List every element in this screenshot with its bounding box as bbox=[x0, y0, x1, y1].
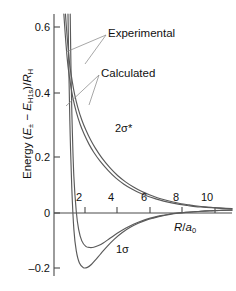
x-tick-label-0: 2 bbox=[71, 191, 87, 203]
x-tick-label-4: 10 bbox=[199, 191, 215, 203]
chart-curves bbox=[64, 14, 232, 268]
y-axis-denom-R: R bbox=[21, 74, 33, 82]
chart-figure: Energy (E± − EH1s)/RH R/a0 0.60.40.20–0.… bbox=[0, 0, 236, 291]
x-axis-title: R/a0 bbox=[174, 221, 196, 235]
y-axis-title: Energy (E± − EH1s)/RH bbox=[21, 24, 35, 224]
y-axis-var-E2: E bbox=[21, 103, 33, 111]
curve-1sigma-experimental bbox=[68, 14, 232, 268]
antibonding-curve-label: 2σ* bbox=[115, 122, 132, 134]
y-tick-label-4: –0.2 bbox=[8, 262, 50, 274]
y-axis-minus: − bbox=[21, 111, 33, 124]
x-tick-label-2: 6 bbox=[136, 191, 152, 203]
curve-2sigma-star-calculated bbox=[65, 14, 232, 209]
bonding-curve-label: 1σ bbox=[116, 243, 129, 255]
y-axis-var-E-sub: ± bbox=[26, 124, 35, 128]
y-tick-marks bbox=[54, 27, 60, 268]
y-tick-label-1: 0.4 bbox=[8, 87, 50, 99]
y-tick-label-2: 0.2 bbox=[8, 151, 50, 163]
y-axis-var-E: E bbox=[21, 128, 33, 136]
y-tick-label-3: 0 bbox=[8, 207, 50, 219]
x-axis-den-sub: 0 bbox=[192, 226, 196, 235]
experimental-annotation: Experimental bbox=[108, 27, 175, 39]
x-tick-label-3: 8 bbox=[168, 191, 184, 203]
x-tick-label-1: 4 bbox=[103, 191, 119, 203]
y-axis-denom-sub: H bbox=[26, 69, 35, 74]
curve-2sigma-star-experimental bbox=[64, 14, 232, 209]
calculated-annotation: Calculated bbox=[101, 67, 155, 79]
y-tick-label-0: 0.6 bbox=[8, 21, 50, 33]
